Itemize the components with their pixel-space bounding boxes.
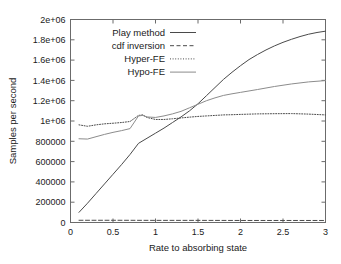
legend-label-hyper-fe: Hyper-FE <box>124 53 165 64</box>
line-chart: 02000004000006000008000001e+061.2e+061.4… <box>0 0 341 264</box>
legend-label-hypo-fe: Hypo-FE <box>128 66 165 77</box>
x-tick-label: 1 <box>153 227 158 237</box>
x-tick-label: 3 <box>323 227 328 237</box>
x-axis-title: Rate to absorbing state <box>149 242 247 253</box>
x-tick-label: 0 <box>68 227 73 237</box>
y-tick-label: 1.2e+06 <box>33 96 66 106</box>
y-tick-label: 0 <box>60 218 65 228</box>
legend-label-cdf-inversion: cdf inversion <box>112 40 165 51</box>
y-tick-label: 1.4e+06 <box>33 76 66 86</box>
x-tick-label: 0.5 <box>107 227 120 237</box>
x-tick-label: 1.5 <box>192 227 205 237</box>
legend-label-play-method: Play method <box>112 27 165 38</box>
x-tick-label: 2 <box>238 227 243 237</box>
y-tick-label: 2e+06 <box>40 15 65 25</box>
series-line-hypo-fe <box>79 81 326 139</box>
y-tick-label: 600000 <box>35 157 65 167</box>
chart-container: 02000004000006000008000001e+061.2e+061.4… <box>0 0 341 264</box>
x-tick-label: 2.5 <box>277 227 290 237</box>
plot-frame <box>71 20 326 223</box>
series-line-hyper-fe <box>79 114 326 127</box>
y-axis-title: Samples per second <box>7 78 18 165</box>
y-tick-label: 1.8e+06 <box>33 35 66 45</box>
y-tick-label: 400000 <box>35 177 65 187</box>
series-line-play-method <box>79 31 326 212</box>
y-tick-label: 1.6e+06 <box>33 55 66 65</box>
y-tick-label: 200000 <box>35 197 65 207</box>
y-tick-label: 1e+06 <box>40 116 65 126</box>
y-tick-label: 800000 <box>35 137 65 147</box>
